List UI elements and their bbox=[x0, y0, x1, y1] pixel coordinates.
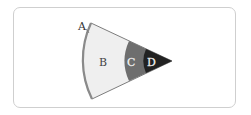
label-b: B bbox=[99, 56, 107, 69]
label-a: A bbox=[77, 20, 87, 33]
sector-diagram: A B C D bbox=[0, 0, 251, 115]
label-d: D bbox=[147, 56, 156, 69]
label-c: C bbox=[127, 56, 135, 69]
